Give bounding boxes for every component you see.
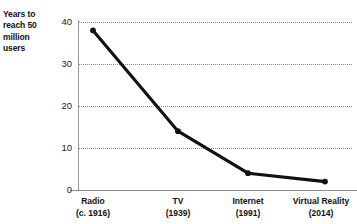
- line-chart: Years to reach 50 million users 40 30 20…: [0, 0, 357, 224]
- series-markers: [90, 28, 328, 185]
- data-point-tv: [175, 128, 181, 134]
- series-line: [93, 30, 325, 181]
- x-tick-year: (c. 1916): [45, 208, 141, 220]
- data-point-internet: [245, 170, 251, 176]
- x-tick-name: TV: [173, 196, 184, 206]
- x-tick-name: Virtual Reality: [293, 196, 350, 206]
- series-line-group: [0, 0, 357, 224]
- x-tick-name: Radio: [81, 196, 105, 206]
- x-tick-label-virtual-reality: Virtual Reality (2014): [273, 196, 357, 219]
- data-point-radio: [90, 28, 96, 34]
- data-point-virtual-reality: [322, 179, 328, 185]
- x-tick-year: (2014): [273, 208, 357, 220]
- x-tick-name: Internet: [232, 196, 263, 206]
- x-tick-label-radio: Radio (c. 1916): [45, 196, 141, 219]
